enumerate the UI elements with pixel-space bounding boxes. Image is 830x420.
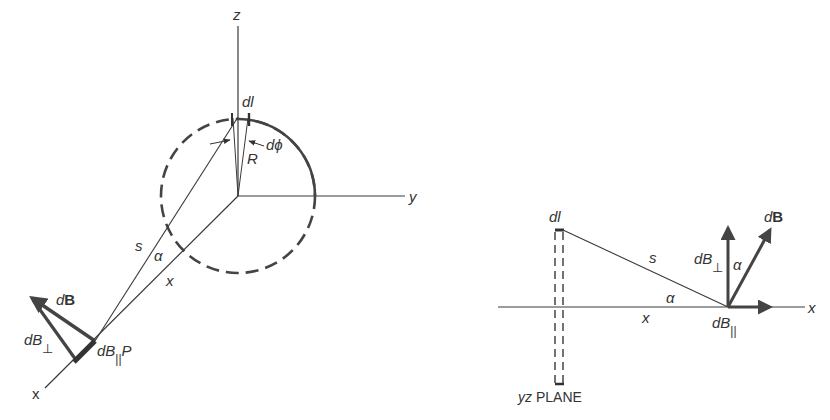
x-axis-label-right: x bbox=[807, 299, 816, 316]
z-axis-label: z bbox=[232, 6, 241, 23]
dB-parallel-label: dB||P bbox=[97, 342, 132, 366]
dphi-arrow-right bbox=[249, 141, 264, 146]
dB-label-right: dB bbox=[764, 208, 783, 225]
yz-plane-label: yzPLANE bbox=[517, 389, 582, 405]
alpha-bottom-label: α bbox=[666, 289, 675, 306]
s-label-right: s bbox=[649, 249, 657, 266]
dphi-label: dϕ bbox=[266, 136, 283, 153]
dB-parallel-label-right: dB|| bbox=[712, 314, 737, 338]
dl-label: dl bbox=[242, 93, 254, 110]
x-axis-label: x bbox=[32, 385, 40, 402]
R-label: R bbox=[247, 150, 258, 167]
dB-parallel-vector bbox=[74, 341, 95, 362]
y-axis-label: y bbox=[408, 188, 418, 205]
x-distance-label: x bbox=[165, 272, 174, 289]
s-label: s bbox=[135, 237, 143, 254]
dB-perp-label: dB⊥ bbox=[24, 331, 53, 356]
dB-label: dB bbox=[56, 291, 75, 308]
dl-label-right: dl bbox=[549, 208, 561, 225]
diagram-canvas: z y x dl dϕ R s α x dB dB⊥ dB||P bbox=[0, 0, 830, 420]
alpha-label: α bbox=[154, 247, 163, 264]
x-distance-label-right: x bbox=[641, 309, 650, 326]
dB-perp-vector bbox=[33, 300, 76, 360]
s-line-right bbox=[563, 230, 728, 307]
dB-perp-label-right: dB⊥ bbox=[694, 250, 723, 275]
current-loop-solid-arc bbox=[250, 120, 315, 196]
right-figure: dl s α α x x dB dB⊥ dB|| yzPLANE bbox=[498, 208, 816, 405]
left-figure: z y x dl dϕ R s α x dB dB⊥ dB||P bbox=[24, 6, 418, 402]
s-line bbox=[95, 117, 238, 341]
alpha-top-label: α bbox=[733, 256, 742, 273]
radius-line-left bbox=[233, 118, 238, 196]
dphi-arrow-left bbox=[210, 140, 230, 144]
